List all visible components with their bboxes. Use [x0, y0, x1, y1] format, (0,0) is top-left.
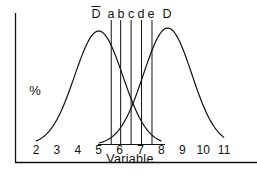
label-cutoff-a: a — [108, 8, 115, 21]
x-tick-label: 9 — [179, 144, 186, 156]
label-non-diseased: D — [91, 8, 100, 21]
x-tick-label: 10 — [197, 144, 210, 156]
cutoff-lines — [111, 20, 152, 145]
y-axis-label: % — [29, 84, 41, 97]
curve-diseased — [99, 28, 224, 143]
x-tick-label: 3 — [54, 144, 61, 156]
x-tick-label: 5 — [95, 144, 102, 156]
label-diseased: D — [162, 8, 171, 21]
x-tick-label: 8 — [158, 144, 165, 156]
label-cutoff-d: d — [138, 8, 145, 21]
x-tick-label: 11 — [218, 144, 230, 156]
label-cutoff-e: e — [148, 8, 155, 21]
x-tick-label: 2 — [33, 144, 40, 156]
curve-non-diseased — [36, 31, 161, 141]
label-cutoff-b: b — [118, 8, 125, 21]
x-tick-label: 4 — [74, 144, 81, 156]
x-axis-label: Variable — [106, 153, 153, 166]
label-cutoff-c: c — [128, 8, 134, 21]
